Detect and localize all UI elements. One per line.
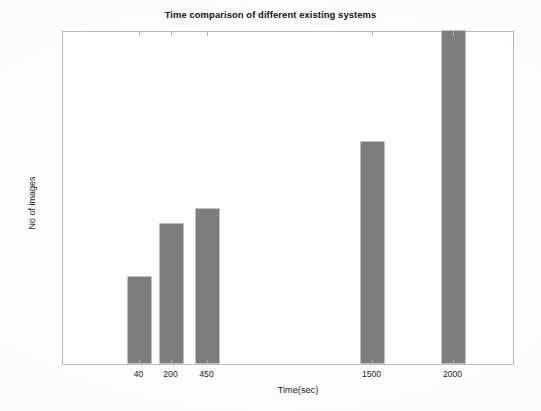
x-tick-mark-1500: [372, 360, 373, 365]
x-tick-mark-2000: [453, 360, 454, 365]
x-tick-mark-200: [171, 360, 172, 365]
x-tick-mark-40: [139, 360, 140, 365]
bar-1500: [360, 141, 385, 364]
x-tick-label-1500: 1500: [342, 369, 402, 379]
x-tick-label-450: 450: [177, 369, 237, 379]
x-tick-mark-top-2000: [453, 31, 454, 36]
x-tick-mark-top-200: [171, 31, 172, 36]
x-axis-label: Time(sec): [0, 385, 541, 395]
y-axis-label: No of images: [27, 143, 37, 263]
bar-200: [159, 223, 184, 364]
bar-450: [195, 208, 220, 364]
x-tick-mark-top-450: [207, 31, 208, 36]
plot-area: [62, 31, 514, 365]
x-tick-mark-450: [207, 360, 208, 365]
chart-figure: Time comparison of different existing sy…: [0, 0, 541, 411]
chart-title: Time comparison of different existing sy…: [0, 9, 541, 20]
bar-2000: [441, 30, 466, 364]
bar-40: [127, 276, 152, 364]
x-tick-label-2000: 2000: [423, 369, 483, 379]
x-tick-mark-top-40: [139, 31, 140, 36]
x-tick-mark-top-1500: [372, 31, 373, 36]
